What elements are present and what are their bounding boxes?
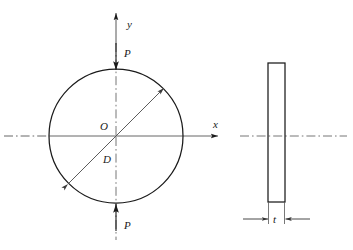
label-axis-x: x bbox=[212, 118, 218, 130]
plate-side-rectangle bbox=[268, 63, 285, 202]
label-diameter-d: D bbox=[102, 153, 111, 165]
front-view-group: y x P P O D bbox=[4, 13, 218, 240]
label-center-o: O bbox=[100, 120, 108, 132]
label-load-top: P bbox=[123, 47, 131, 59]
side-view-group: t bbox=[240, 63, 347, 225]
label-thickness-t: t bbox=[273, 213, 277, 225]
label-load-bottom: P bbox=[123, 219, 131, 231]
figure-container: y x P P O D t bbox=[0, 0, 353, 250]
engineering-diagram: y x P P O D t bbox=[0, 0, 353, 250]
label-axis-y: y bbox=[126, 18, 132, 30]
